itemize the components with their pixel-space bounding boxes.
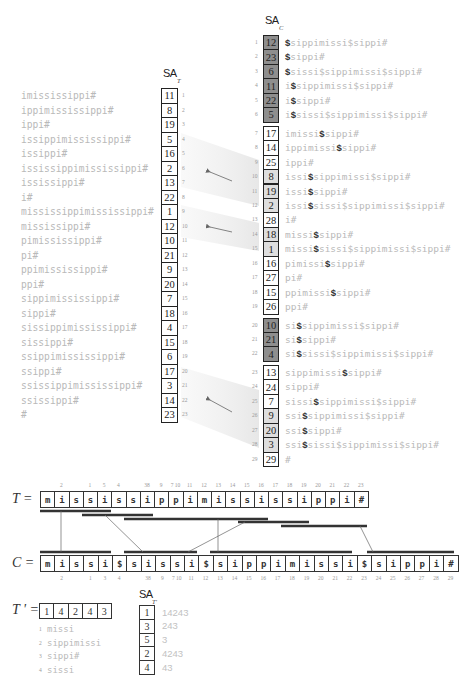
sa-t-cell: 1 (161, 204, 178, 220)
sa-t-suffix: pimississippi# (21, 236, 102, 246)
c-char-cell: s (155, 555, 170, 572)
t-char-cell: i (54, 491, 69, 508)
sa-t-row-index: 16 (182, 311, 188, 317)
mapping-band-issi (181, 133, 259, 206)
sa-c-row-index: 5 (255, 98, 258, 104)
t-char-cell: s (268, 491, 283, 508)
sa-c-row-index: 28 (252, 442, 258, 448)
c-char-cell: i (386, 555, 401, 572)
sa-t-row-index: 13 (182, 267, 188, 273)
suffix-rest: sippimissi$sippi# (296, 80, 393, 91)
sa-t-cell: 18 (161, 306, 178, 322)
t-position-label: 2 (51, 483, 71, 489)
sa-t-cell: 8 (161, 103, 178, 119)
t-char-cell: s (225, 491, 240, 508)
sa-t-row-index: 12 (182, 253, 188, 259)
sa-tp-suffix: 3 (162, 634, 167, 645)
sa-c-title: SA (265, 14, 279, 26)
t-char-cell: i (183, 491, 198, 508)
c-char-cell: i (299, 555, 314, 572)
sa-c-cell: 8 (263, 169, 279, 184)
sa-t-cell: 9 (161, 262, 178, 278)
t-char-cell: p (154, 491, 169, 508)
t-char-cell: p (168, 491, 183, 508)
sa-c-row-index: 9 (255, 160, 258, 166)
suffix-rest: sippi# (313, 186, 347, 197)
sa-t-subscript: T (177, 77, 181, 84)
sa-c-row-index: 3 (255, 69, 258, 75)
suffix-prefix: si (285, 320, 296, 331)
sa-c-cell: 18 (263, 227, 279, 242)
sa-c-subscript: C (279, 24, 283, 31)
sa-t-row-index: 1 (182, 93, 185, 99)
c-char-cell: i (141, 555, 156, 572)
sa-c-cell: 27 (263, 270, 279, 285)
sa-t-cell: 2 (161, 161, 178, 177)
suffix-rest: sippi# (319, 229, 353, 240)
sa-tp-cell: 2 (139, 646, 155, 661)
sa-c-row-index: 19 (252, 304, 258, 310)
sa-c-cell: 26 (263, 299, 279, 314)
c-char-cell: s (69, 555, 84, 572)
sa-c-cell: 21 (263, 332, 279, 347)
sa-c-row-index: 22 (252, 351, 258, 357)
sa-t-row-index: 23 (182, 412, 188, 418)
sa-t-cell: 10 (161, 233, 178, 249)
sa-c-suffix: # (285, 455, 291, 465)
c-char-cell: i (184, 555, 199, 572)
sa-t-cell: 17 (161, 364, 178, 380)
sa-t-suffix: ippimississippi# (21, 106, 113, 116)
sa-c-suffix: si$sippimissi$sippi# (285, 321, 399, 331)
t-char-cell: # (354, 491, 369, 508)
sa-c-suffix: i$sippi# (285, 96, 330, 106)
suffix-rest: sippi# (348, 367, 382, 378)
c-char-cell: i (342, 555, 357, 572)
phrase-word: sissi (47, 665, 74, 675)
sa-c-cell: 12 (263, 35, 279, 50)
c-char-cell: p (256, 555, 271, 572)
sa-c-row-index: 13 (252, 217, 258, 223)
t-prime-cell: 1 (39, 603, 54, 619)
sa-tp-suffix: 4243 (162, 648, 183, 659)
c-char-cell: s (170, 555, 185, 572)
sa-c-cell: 1 (263, 241, 279, 256)
sa-t-cell: 5 (161, 132, 178, 148)
suffix-rest: sippi# (296, 95, 330, 106)
sa-t-suffix: imississippi# (21, 91, 96, 101)
c-char-cell: s (314, 555, 329, 572)
suffix-rest: sippi# (342, 142, 376, 153)
sa-t-row-index: 18 (182, 340, 188, 346)
c-char-cell: p (242, 555, 257, 572)
t-char-cell: s (240, 491, 255, 508)
sa-c-cell: 29 (263, 452, 279, 467)
c-char-cell: s (213, 555, 228, 572)
sa-t-suffix: issippi# (21, 149, 67, 159)
sa-c-cell: 25 (263, 155, 279, 170)
sa-c-suffix: ssi$sissi$sippimissi$sippi# (285, 440, 439, 450)
suffix-prefix: ippi# (285, 157, 314, 168)
c-char-cell: i (429, 555, 444, 572)
suffix-rest: sippimissi$sippi# (290, 37, 387, 48)
suffix-rest: sippi# (290, 51, 324, 62)
sa-t-suffix: ippi# (21, 120, 50, 130)
sa-c-suffix: ssi$sippi# (285, 426, 342, 436)
sa-c-suffix: pi# (285, 273, 302, 283)
sa-t-cell: 3 (161, 378, 178, 394)
mapping-band-ssi (181, 367, 259, 448)
sa-c-row-index: 17 (252, 275, 258, 281)
c-char-cell: s (371, 555, 386, 572)
phrase-number: 1 (39, 626, 42, 632)
sa-c-suffix: sippi# (285, 382, 319, 392)
t-char-cell: m (40, 491, 55, 508)
sa-c-cell: 2 (263, 198, 279, 213)
c-char-cell: s (126, 555, 141, 572)
sa-c-suffix: i$sissi$sippimissi$sippi# (285, 110, 428, 120)
sa-t-cell: 19 (161, 117, 178, 133)
sa-t-cell: 12 (161, 219, 178, 235)
t-char-cell: i (254, 491, 269, 508)
sa-c-row-index: 4 (255, 83, 258, 89)
t-char-cell: s (282, 491, 297, 508)
sa-t-cell: 22 (161, 190, 178, 206)
suffix-rest: sissi$sippimissi$sippi# (307, 439, 439, 450)
sa-tp-cell: 4 (139, 660, 155, 675)
